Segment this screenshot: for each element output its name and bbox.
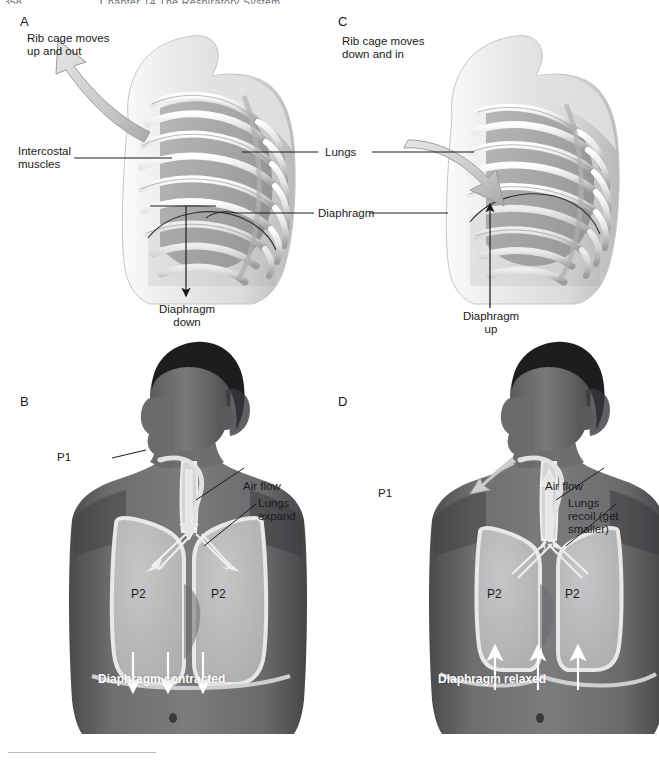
label-p2-right-b: P2 [211,588,226,601]
panel-letter-b: B [20,394,29,409]
label-p2-left-b: P2 [131,588,146,601]
label-lungs-recoil: Lungs recoil (get smaller) [568,497,619,536]
label-p1-d: P1 [378,487,392,500]
panel-letter-c: C [338,14,347,29]
label-lungs: Lungs [325,146,356,159]
label-diaphragm-relaxed: Diaphragm relaxed [438,672,546,686]
panel-letter-a: A [20,14,29,29]
figure-artwork [0,0,659,761]
label-diaphragm-up: Diaphragm up [456,310,526,336]
label-air-flow-d: Air flow [545,480,583,493]
label-rib-cage-moves-up-and-out: Rib cage moves up and out [27,32,109,58]
panel-a-artwork [56,36,318,304]
label-air-flow-b: Air flow [243,480,281,493]
label-diaphragm-down: Diaphragm down [152,303,222,329]
label-diaphragm-contracted: Diaphragm contracted [98,672,225,686]
figure-mechanics-of-breathing: 358 Chapter 14 The Respiratory System [0,0,659,761]
label-rib-cage-moves-down-and-in: Rib cage moves down and in [342,35,424,61]
footer-rule [8,752,156,753]
panel-c-artwork [370,36,619,308]
label-lungs-expand: Lungs expand [258,497,296,523]
label-diaphragm: Diaphragm [318,207,374,220]
panel-letter-d: D [338,394,347,409]
label-p2-left-d: P2 [487,588,502,601]
label-intercostal-muscles: Intercostal muscles [18,145,71,171]
label-p2-right-d: P2 [565,588,580,601]
label-p1-b: P1 [57,451,71,464]
